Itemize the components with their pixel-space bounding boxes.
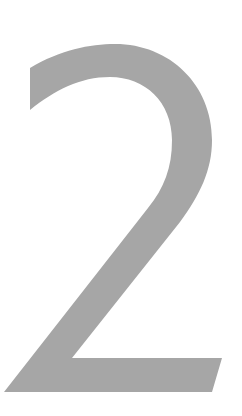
numeral-two-icon [0,0,242,416]
